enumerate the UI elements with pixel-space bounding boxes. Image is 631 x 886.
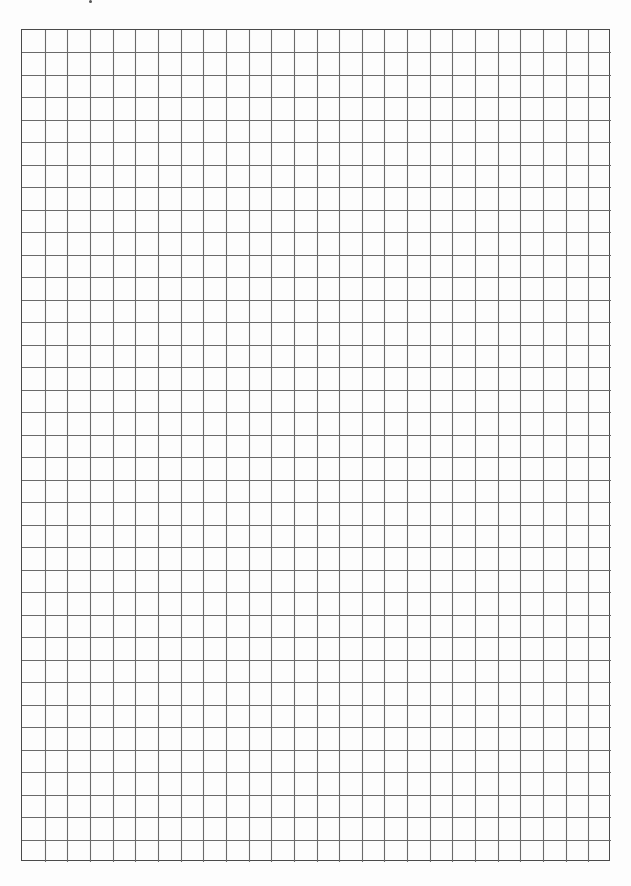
square-grid [21,29,610,861]
grid-lines [22,30,611,862]
scan-speck [89,0,92,3]
graph-paper-page [0,0,631,886]
